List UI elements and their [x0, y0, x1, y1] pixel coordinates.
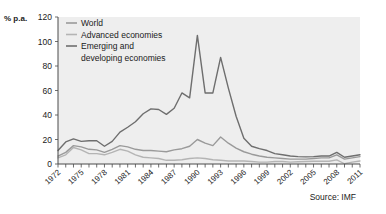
legend-label: Advanced economies [81, 30, 162, 40]
legend-label: developing economies [81, 53, 166, 63]
source-note: Source: IMF [310, 192, 356, 202]
y-tick-label: 80 [43, 61, 53, 71]
y-tick-label: 0 [47, 159, 52, 169]
legend-label: Emerging and [81, 41, 134, 51]
y-axis-label: % p.a. [4, 14, 27, 23]
legend-label: World [81, 18, 103, 28]
y-tick-label: 120 [38, 12, 52, 22]
y-tick-label: 100 [38, 37, 52, 47]
y-tick-label: 20 [43, 135, 53, 145]
y-tick-label: 40 [43, 110, 53, 120]
inflation-line-chart: 020406080100120 197219751978198119841987… [0, 0, 386, 214]
y-tick-label: 60 [43, 86, 53, 96]
